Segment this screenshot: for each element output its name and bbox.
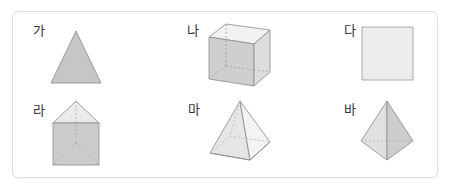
triangular-prism-figure: [53, 101, 99, 165]
square-figure: [362, 27, 413, 80]
cube-figure: [209, 24, 270, 86]
triangular-pyramid-figure: [361, 101, 413, 160]
square-pyramid-figure: [210, 101, 270, 160]
triangle-figure: [51, 31, 101, 83]
